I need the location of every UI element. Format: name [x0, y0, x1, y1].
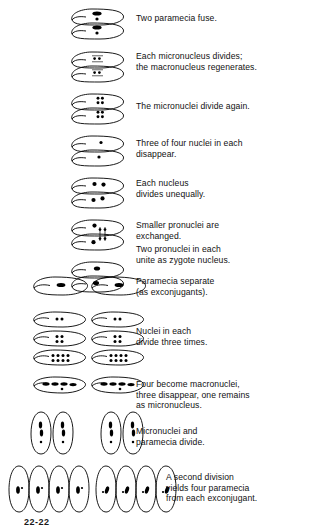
stage-caption-pronuclei-exchanged: Smaller pronuclei are exchanged.: [136, 220, 219, 241]
stage-art-three-of-four-disappear: [66, 133, 130, 173]
stage-art-paramecia-separate: [30, 275, 145, 303]
stage-caption-three-of-four-disappear: Three of four nuclei in each disappear.: [136, 138, 243, 159]
stage-art-second-division: [8, 464, 148, 520]
stage-art-nuclei-divide-three-times: [30, 311, 145, 371]
stage-caption-micronucleus-divides: Each micronucleus divides; the macronucl…: [136, 51, 257, 72]
stage-art-fusion: [66, 6, 130, 46]
stage-art-pronuclei-exchanged: [66, 217, 130, 257]
stage-art-four-become-macronuclei: [30, 375, 145, 401]
paramecium-conjugation-figure: Two paramecia fuse.: [0, 0, 320, 529]
stage-caption-second-division: A second division yields four paramecia …: [166, 472, 257, 504]
stage-caption-nuclei-divide-three-times: Nuclei in each divide three times.: [136, 326, 207, 347]
stage-art-micronucleus-divides: [66, 49, 130, 89]
stage-art-nucleus-divides-unequally: [66, 175, 130, 215]
stage-caption-zygote-nucleus: Two pronuclei in each unite as zygote nu…: [136, 244, 230, 265]
stage-art-micronuclei-and-paramecia-divide: [30, 408, 145, 460]
stage-caption-micronuclei-and-paramecia-divide: Micronuclei and paramecia divide.: [136, 426, 205, 447]
stage-caption-paramecia-separate: Paramecia separate (as exconjugants).: [136, 276, 214, 297]
stage-caption-nucleus-divides-unequally: Each nucleus divides unequally.: [136, 178, 205, 199]
stage-caption-four-become-macronuclei: Four become macronuclei, three disappear…: [136, 379, 250, 411]
page-number: 22-22: [24, 517, 50, 526]
stage-caption-micronuclei-divide-again: The micronuclei divide again.: [136, 101, 250, 112]
stage-caption-fusion: Two paramecia fuse.: [136, 13, 217, 24]
stage-art-micronuclei-divide-again: [66, 91, 130, 131]
